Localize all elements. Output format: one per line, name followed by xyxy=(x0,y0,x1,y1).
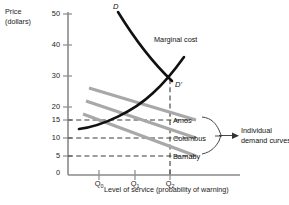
marginal-cost-label: Marginal cost xyxy=(154,35,197,44)
demand-label-barnaby: Barnaby xyxy=(173,152,200,161)
chart-figure: Price (dollars) 50 40 30 20 15 10 5 0 Q0… xyxy=(0,0,289,205)
y-tick-label-40: 40 xyxy=(36,40,60,49)
y-tick-label-15: 15 xyxy=(36,115,60,124)
y-axis-title-line1: Price xyxy=(5,7,31,17)
y-axis-title: Price (dollars) xyxy=(5,7,31,26)
legend-leader-lines xyxy=(202,117,239,154)
y-tick-label-50: 50 xyxy=(36,9,60,18)
y-tick-label-5: 5 xyxy=(36,151,60,160)
legend-line1: Individual xyxy=(241,126,289,136)
legend-individual-demand-curves: Individual demand curves xyxy=(241,126,289,145)
x-axis-title: Level of service (probability of warning… xyxy=(104,185,229,195)
y-axis-title-line2: (dollars) xyxy=(5,17,31,27)
y-tick-label-0: 0 xyxy=(36,168,60,177)
demand-label-columbus: Columbus xyxy=(173,134,206,143)
demand-curve-d xyxy=(118,12,172,81)
y-tick-label-20: 20 xyxy=(36,102,60,111)
y-tick-label-30: 30 xyxy=(36,71,60,80)
curve-label-d-prime: D' xyxy=(175,80,182,89)
legend-line2: demand curves xyxy=(241,136,289,146)
demand-label-amos: Amos xyxy=(173,116,192,125)
curve-label-d: D xyxy=(113,2,118,11)
x-tick-q0-sub: 0 xyxy=(100,183,103,189)
y-tick-label-10: 10 xyxy=(36,133,60,142)
